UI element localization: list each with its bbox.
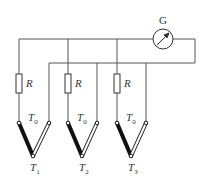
measuring-junction-label-2: T2 — [79, 162, 89, 176]
circuit-diagram — [0, 0, 213, 187]
thermocouple-1 — [17, 121, 51, 158]
thermocouple-3 — [115, 121, 148, 158]
resistor-label-2: R — [75, 78, 82, 89]
top-wire — [19, 39, 153, 123]
reference-junction-label-1: T0 — [28, 112, 38, 126]
resistor-label-3: R — [124, 78, 131, 89]
resistor-label-1: R — [26, 78, 33, 89]
reference-junction-label-3: T0 — [126, 112, 136, 126]
resistor-3 — [114, 74, 120, 93]
measuring-junction-label-3: T3 — [128, 162, 138, 176]
resistor-1 — [16, 74, 22, 93]
thermocouple-2 — [66, 121, 99, 158]
reference-junction-label-2: T0 — [77, 112, 87, 126]
measuring-junction-label-1: T1 — [30, 162, 40, 176]
galvanometer — [153, 29, 173, 49]
galvanometer-label: G — [159, 15, 167, 26]
resistor-2 — [65, 74, 71, 93]
